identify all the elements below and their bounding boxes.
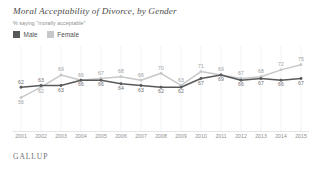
- data-label: 63: [178, 77, 184, 83]
- data-point[interactable]: [40, 84, 43, 87]
- x-axis-tick-label: 2004: [75, 133, 87, 139]
- data-point[interactable]: [140, 79, 143, 82]
- chart-plot-area: 6263636666646362626769666766675662696667…: [13, 46, 309, 132]
- data-point[interactable]: [20, 86, 23, 89]
- x-axis-tick-label: 2006: [115, 133, 127, 139]
- legend-swatch-male-icon: [13, 31, 20, 38]
- legend-item-female[interactable]: Female: [47, 31, 79, 38]
- data-point[interactable]: [300, 63, 303, 66]
- data-label: 63: [138, 87, 144, 93]
- data-label: 67: [298, 80, 304, 86]
- legend-label-female: Female: [57, 31, 79, 38]
- x-axis-tick-label: 2010: [195, 133, 207, 139]
- x-axis-tick-label: 2008: [155, 133, 167, 139]
- data-label: 56: [18, 99, 24, 105]
- data-label: 66: [238, 81, 244, 87]
- x-axis-tick-label: 2012: [235, 133, 247, 139]
- x-axis-tick-label: 2015: [295, 133, 307, 139]
- data-point[interactable]: [160, 72, 163, 75]
- data-label: 66: [98, 81, 104, 87]
- data-label: 71: [198, 63, 204, 69]
- x-axis-tick-label: 2005: [95, 133, 107, 139]
- data-label: 69: [58, 66, 64, 72]
- x-axis-tick-label: 2014: [275, 133, 287, 139]
- x-axis-tick-label: 2003: [55, 133, 67, 139]
- x-axis-tick-label: 2007: [135, 133, 147, 139]
- data-label: 69: [218, 66, 224, 72]
- data-point[interactable]: [280, 68, 283, 71]
- data-label: 63: [38, 77, 44, 83]
- data-label: 72: [278, 61, 284, 67]
- data-label: 66: [78, 72, 84, 78]
- gallup-brand: GALLUP: [13, 152, 48, 161]
- x-axis-tick-label: 2002: [35, 133, 47, 139]
- data-point[interactable]: [60, 74, 63, 77]
- data-label: 70: [158, 65, 164, 71]
- data-label: 67: [198, 80, 204, 86]
- gallup-chart-card: Moral Acceptability of Divorce, by Gende…: [0, 0, 321, 169]
- data-label: 67: [238, 70, 244, 76]
- line-chart: 6263636666646362626769666766675662696667…: [13, 46, 309, 132]
- data-label: 62: [158, 88, 164, 94]
- data-label: 67: [258, 80, 264, 86]
- chart-subtitle: % saying "morally acceptable": [13, 20, 85, 26]
- chart-x-axis: 2001200220032004200520062007200820092010…: [13, 133, 309, 145]
- data-label: 62: [18, 79, 24, 85]
- data-label: 64: [118, 85, 124, 91]
- x-axis-tick-label: 2013: [255, 133, 267, 139]
- data-point[interactable]: [200, 70, 203, 73]
- page-title: Moral Acceptability of Divorce, by Gende…: [13, 6, 177, 16]
- data-label: 68: [258, 68, 264, 74]
- x-axis-tick-label: 2009: [175, 133, 187, 139]
- data-label: 75: [298, 56, 304, 62]
- data-label: 63: [58, 87, 64, 93]
- chart-legend: Male Female: [13, 31, 79, 38]
- data-label: 66: [278, 81, 284, 87]
- x-axis-tick-label: 2011: [215, 133, 226, 139]
- data-label: 62: [178, 88, 184, 94]
- legend-swatch-female-icon: [47, 31, 54, 38]
- x-axis-tick-label: 2001: [15, 133, 27, 139]
- data-label: 66: [78, 81, 84, 87]
- data-label: 68: [118, 68, 124, 74]
- legend-item-male[interactable]: Male: [13, 31, 38, 38]
- data-point[interactable]: [120, 75, 123, 78]
- legend-label-male: Male: [24, 31, 38, 38]
- data-label: 62: [38, 88, 44, 94]
- data-label: 66: [138, 72, 144, 78]
- data-label: 69: [218, 76, 224, 82]
- data-label: 67: [98, 70, 104, 76]
